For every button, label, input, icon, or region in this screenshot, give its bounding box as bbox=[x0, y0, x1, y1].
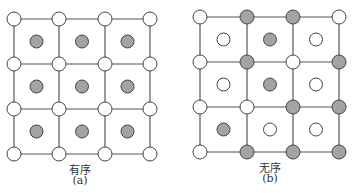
center-atom-gray bbox=[121, 125, 134, 138]
corner-atom-white bbox=[286, 55, 300, 69]
center-atom-white bbox=[217, 78, 230, 91]
corner-atom-white bbox=[52, 147, 66, 161]
sublabel-b: (b) bbox=[250, 172, 290, 185]
corner-atom-white bbox=[52, 12, 66, 26]
corner-atom-white bbox=[7, 102, 21, 116]
panel-b bbox=[193, 10, 346, 159]
corner-atom-white bbox=[240, 100, 254, 114]
center-atom-gray bbox=[76, 125, 89, 138]
corner-atom-gray bbox=[240, 145, 254, 159]
center-atom-gray bbox=[76, 35, 89, 48]
corner-atom-white bbox=[52, 57, 66, 71]
corner-atom-white bbox=[143, 12, 157, 26]
lattice-diagram bbox=[0, 0, 353, 193]
corner-atom-gray bbox=[286, 100, 300, 114]
corner-atom-gray bbox=[286, 145, 300, 159]
corner-atom-white bbox=[193, 100, 207, 114]
corner-atom-white bbox=[98, 12, 112, 26]
corner-atom-white bbox=[143, 147, 157, 161]
corner-atom-gray bbox=[332, 100, 346, 114]
center-atom-gray bbox=[30, 80, 43, 93]
corner-atom-gray bbox=[240, 55, 254, 69]
corner-atom-white bbox=[332, 10, 346, 24]
corner-atom-white bbox=[193, 55, 207, 69]
corner-atom-white bbox=[7, 147, 21, 161]
center-atom-white bbox=[264, 123, 277, 136]
corner-atom-white bbox=[98, 102, 112, 116]
corner-atom-white bbox=[143, 102, 157, 116]
corner-atom-white bbox=[52, 102, 66, 116]
corner-atom-white bbox=[7, 12, 21, 26]
center-atom-gray bbox=[121, 35, 134, 48]
center-atom-white bbox=[310, 78, 323, 91]
center-atom-white bbox=[217, 33, 230, 46]
corner-atom-gray bbox=[332, 145, 346, 159]
center-atom-gray bbox=[121, 80, 134, 93]
corner-atom-white bbox=[193, 145, 207, 159]
corner-atom-white bbox=[7, 57, 21, 71]
corner-atom-gray bbox=[286, 10, 300, 24]
center-atom-gray bbox=[30, 125, 43, 138]
corner-atom-gray bbox=[240, 10, 254, 24]
corner-atom-white bbox=[98, 57, 112, 71]
center-atom-white bbox=[310, 33, 323, 46]
corner-atom-white bbox=[143, 57, 157, 71]
corner-atom-white bbox=[193, 10, 207, 24]
sublabel-a: (a) bbox=[60, 174, 100, 187]
center-atom-white bbox=[310, 123, 323, 136]
center-atom-gray bbox=[264, 78, 277, 91]
center-atom-gray bbox=[30, 35, 43, 48]
center-atom-gray bbox=[264, 33, 277, 46]
corner-atom-gray bbox=[332, 55, 346, 69]
center-atom-gray bbox=[217, 123, 230, 136]
corner-atom-white bbox=[98, 147, 112, 161]
center-atom-gray bbox=[76, 80, 89, 93]
panel-a bbox=[7, 12, 157, 161]
